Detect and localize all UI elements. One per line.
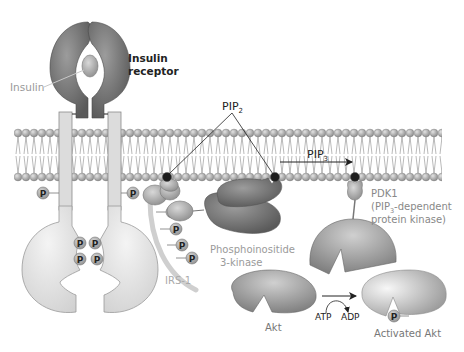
insulin-label: Insulin: [10, 81, 44, 93]
insulin-signaling-diagram: P P P P P P P P P P: [0, 0, 464, 352]
svg-text:P: P: [173, 225, 180, 235]
pip2-to-pip3-molecule: [271, 173, 280, 182]
svg-text:P: P: [77, 239, 84, 249]
pdk1-description-line2: (PIP3-dependent: [371, 201, 452, 215]
svg-text:P: P: [40, 189, 47, 199]
insulin-receptor-label-line1: Insulin: [128, 52, 168, 64]
activated-akt-label: Activated Akt: [374, 328, 441, 339]
pip2-molecule: [163, 173, 172, 182]
svg-text:P: P: [130, 189, 137, 199]
svg-text:P: P: [77, 255, 84, 265]
pi3k-label-line2: 3-kinase: [220, 257, 262, 268]
akt-label: Akt: [265, 322, 282, 333]
akt-protein: [232, 270, 317, 313]
pi3k-label-line1: Phosphoinositide: [210, 244, 295, 255]
pi3-kinase: [143, 178, 282, 233]
svg-text:P: P: [179, 241, 186, 251]
pdk1-label: PDK1: [371, 188, 398, 199]
plasma-membrane: [14, 127, 442, 183]
irs1-label: IRS-1: [165, 275, 191, 286]
adp-label: ADP: [341, 312, 360, 322]
svg-text:P: P: [92, 239, 99, 249]
pip2-label: PIP2: [222, 100, 243, 115]
insulin-receptor-label-line2: receptor: [128, 65, 179, 77]
activated-akt: P: [362, 270, 446, 322]
svg-text:P: P: [189, 254, 196, 264]
receptor-kinase-domain-left: [22, 206, 80, 313]
atp-label: ATP: [315, 312, 332, 322]
pdk1-description-line3: protein kinase): [371, 214, 446, 225]
svg-text:P: P: [94, 255, 101, 265]
pip3-molecule: [351, 173, 360, 182]
pdk1-kinase-domain: [310, 219, 396, 274]
svg-text:P: P: [391, 312, 398, 322]
insulin-molecule: [82, 55, 98, 77]
